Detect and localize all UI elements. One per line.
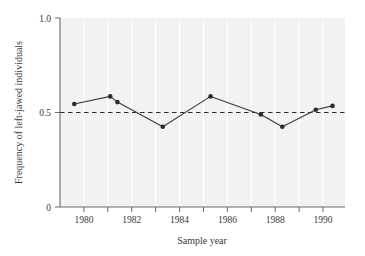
x-tick-label-1988: 1988 bbox=[266, 215, 285, 225]
data-point[interactable] bbox=[72, 102, 77, 107]
y-tick-label-0-5: 0.5 bbox=[39, 108, 51, 118]
data-point[interactable] bbox=[115, 100, 120, 105]
x-tick-label-1982: 1982 bbox=[122, 215, 141, 225]
x-axis-title: Sample year bbox=[177, 235, 227, 246]
x-tick-label-1984: 1984 bbox=[170, 215, 189, 225]
chart-figure: 1.0 0.5 0 1980 1982 1984 1986 1988 1990 bbox=[0, 0, 365, 256]
x-tick-label-1990: 1990 bbox=[314, 215, 333, 225]
data-point[interactable] bbox=[208, 94, 213, 99]
data-point[interactable] bbox=[161, 125, 166, 130]
y-axis-title: Frequency of left-jawed individuals bbox=[13, 41, 24, 184]
data-point[interactable] bbox=[259, 112, 264, 117]
y-tick-label-0: 0 bbox=[46, 203, 51, 213]
data-point[interactable] bbox=[314, 107, 319, 112]
data-point[interactable] bbox=[330, 104, 335, 109]
line-chart: 1.0 0.5 0 1980 1982 1984 1986 1988 1990 bbox=[0, 0, 365, 256]
x-tick-label-1986: 1986 bbox=[218, 215, 237, 225]
y-tick-label-1: 1.0 bbox=[39, 14, 51, 24]
data-point[interactable] bbox=[108, 94, 113, 99]
data-point[interactable] bbox=[280, 125, 285, 130]
x-tick-label-1980: 1980 bbox=[74, 215, 93, 225]
